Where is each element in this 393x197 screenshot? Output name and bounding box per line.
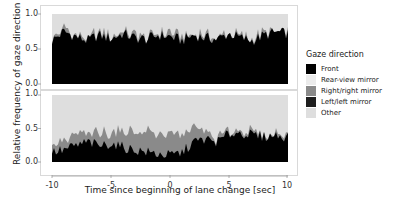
legend-item-right-mirror: Right/right mirror [306, 85, 393, 96]
top-ytick-0: 0.0 [22, 79, 38, 88]
bottom-ytick-05: 0.5 [22, 124, 38, 133]
xtick-neg10: -10 [42, 181, 62, 190]
legend-label: Left/left mirror [321, 98, 372, 106]
legend-item-other: Other [306, 107, 393, 118]
legend-label: Other [321, 109, 341, 117]
legend-item-rear-view-mirror: Rear-view mirror [306, 74, 393, 85]
legend-swatch-other [306, 108, 316, 118]
top-ytick-1: 1.0 [22, 9, 38, 18]
legend-label: Right/right mirror [321, 87, 382, 95]
bottom-ytick-1: 1.0 [22, 89, 38, 98]
top-ytick-05: 0.5 [22, 44, 38, 53]
legend: Gaze direction Front Rear-view mirror Ri… [306, 50, 393, 118]
y-axis-label: Relative frequency of gaze direction [12, 15, 22, 165]
legend-item-front: Front [306, 63, 393, 74]
x-axis-label: Time since beginning of lane change [sec… [60, 185, 300, 195]
bottom-ytick-0: 0.0 [22, 157, 38, 166]
legend-label: Rear-view mirror [321, 76, 379, 84]
top-panel-plot [52, 14, 288, 84]
legend-swatch-right [306, 86, 316, 96]
legend-swatch-front [306, 64, 316, 74]
legend-swatch-rear-view [306, 75, 316, 85]
legend-label: Front [321, 65, 339, 73]
legend-title: Gaze direction [306, 50, 393, 59]
bottom-panel-plot [52, 95, 288, 162]
legend-swatch-left [306, 97, 316, 107]
legend-item-left-mirror: Left/left mirror [306, 96, 393, 107]
